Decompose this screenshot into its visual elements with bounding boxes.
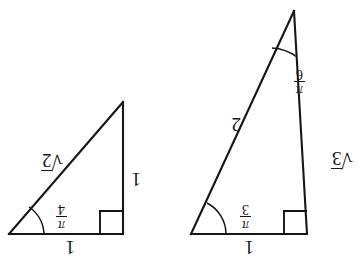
triangle-30-60-90-left-side	[294, 11, 307, 234]
radicand-value: 2	[41, 150, 53, 171]
fraction-denominator: 6	[294, 67, 305, 83]
fraction-numerator: π	[294, 82, 305, 97]
triangle-45-45-90-hypotenuse-label: √2	[41, 150, 63, 171]
radical-sign-icon: √	[341, 150, 353, 169]
triangle-30-60-90-top-side-label: 1	[245, 238, 255, 257]
triangle-45-45-90-left-side-label: 1	[132, 170, 142, 189]
fraction-pi-over-4: π 4	[56, 202, 67, 232]
triangle-30-60-90-angle-label-pi-3: π 3	[240, 202, 251, 232]
triangle-45-45-90-angle-arc-pi-4	[29, 207, 44, 234]
triangle-45-45-90-right-angle-marker	[100, 211, 123, 234]
triangle-30-60-90-left-side-label: √3	[331, 148, 353, 169]
fraction-pi-over-3: π 3	[240, 202, 251, 232]
triangle-30-60-90-angle-arc-pi-3	[207, 203, 226, 234]
triangle-30-60-90	[191, 11, 307, 234]
sqrt-radical-2: √2	[41, 150, 63, 171]
fraction-numerator: π	[240, 217, 251, 232]
triangle-30-60-90-hypotenuse	[191, 11, 294, 234]
fraction-numerator: π	[56, 217, 67, 232]
triangle-45-45-90-angle-label-pi-4: π 4	[56, 202, 67, 232]
radical-sign-icon: √	[51, 152, 63, 171]
triangle-45-45-90-top-side-label: 1	[66, 238, 76, 257]
radicand-value: 3	[331, 148, 343, 169]
fraction-denominator: 3	[240, 202, 251, 218]
sqrt-radical-3: √3	[331, 148, 353, 169]
triangle-30-60-90-hypotenuse-label: 2	[232, 115, 242, 134]
fraction-denominator: 4	[56, 202, 67, 218]
triangle-30-60-90-angle-label-pi-6: π 6	[294, 67, 305, 97]
fraction-pi-over-6: π 6	[294, 67, 305, 97]
triangle-30-60-90-right-angle-marker	[284, 211, 307, 234]
